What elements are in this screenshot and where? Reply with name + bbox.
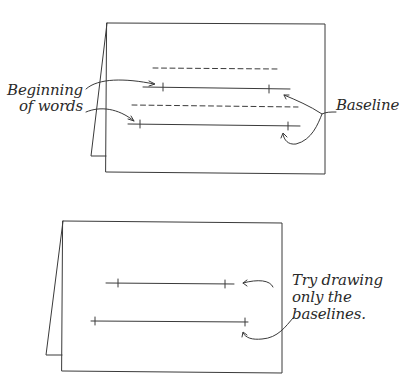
try-drawing-label: Try drawing only the baselines. (292, 272, 383, 323)
arrow-beginning-1 (86, 80, 154, 89)
arrow-try-2 (243, 318, 293, 339)
top-card-back-flap (91, 23, 107, 156)
baseline-4 (91, 321, 248, 322)
baseline-2 (128, 124, 300, 126)
dashed-line-1 (153, 68, 278, 69)
dashed-line-2 (132, 105, 298, 107)
top-card-guidelines (128, 68, 300, 130)
bottom-card-front (62, 221, 282, 373)
bottom-card-back-flap (46, 221, 63, 355)
try-label-line2: only the (292, 289, 383, 306)
arrow-baseline-2 (283, 114, 322, 144)
arrow-try-1 (243, 281, 273, 287)
bottom-arrows (242, 280, 293, 339)
top-arrows (86, 80, 336, 144)
bottom-card (46, 221, 282, 373)
bottom-card-guidelines (91, 279, 248, 326)
top-card (91, 23, 325, 174)
diagram-canvas (0, 0, 409, 387)
baseline-1 (143, 87, 290, 89)
try-label-line3: baselines. (292, 306, 383, 323)
try-label-line1: Try drawing (292, 272, 383, 289)
arrow-baseline-1 (284, 95, 336, 114)
beginning-label-line1: Beginning (3, 82, 83, 98)
arrow-beginning-2 (86, 109, 134, 121)
beginning-of-words-label: Beginning of words (3, 82, 83, 114)
baseline-label: Baseline (336, 97, 399, 113)
baseline-3 (106, 283, 234, 284)
beginning-label-line2: of words (3, 98, 83, 114)
